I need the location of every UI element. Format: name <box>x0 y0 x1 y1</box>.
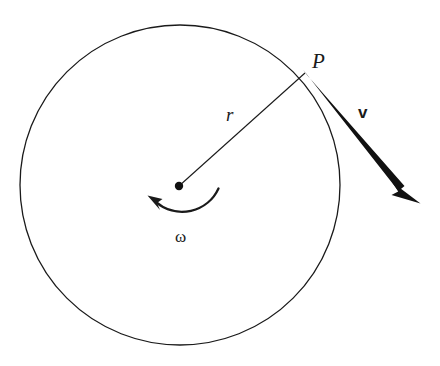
velocity-vector-shaft <box>303 70 405 192</box>
circular-motion-diagram: P r v ω <box>0 0 440 366</box>
center-dot <box>175 182 183 190</box>
velocity-arrowhead <box>392 182 421 204</box>
angular-velocity-label: ω <box>175 228 186 245</box>
rotation-arc <box>157 189 219 212</box>
radius-label: r <box>226 105 233 124</box>
velocity-label: v <box>358 104 367 121</box>
point-p-label: P <box>312 51 325 72</box>
rotation-arrowhead <box>148 196 163 211</box>
diagram-canvas <box>0 0 440 366</box>
radius-line <box>179 73 305 186</box>
